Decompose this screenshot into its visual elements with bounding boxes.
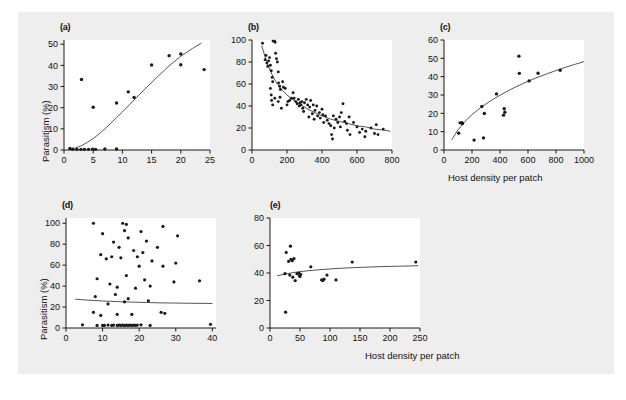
data-point bbox=[527, 79, 530, 82]
panel-d-plot: 020406080100010203040 bbox=[30, 200, 230, 355]
data-point bbox=[136, 323, 139, 326]
data-point bbox=[138, 265, 141, 268]
data-point bbox=[284, 87, 287, 90]
data-point bbox=[336, 121, 339, 124]
y-tick-label: 50 bbox=[48, 39, 58, 49]
data-point bbox=[270, 69, 273, 72]
data-point bbox=[300, 100, 303, 103]
data-point bbox=[269, 64, 272, 67]
y-tick-label: 0 bbox=[259, 323, 264, 333]
panel-e: (e) 020406080050100150200250 Host densit… bbox=[240, 200, 440, 375]
data-point bbox=[277, 70, 280, 73]
panel-b: (b) 0204060801000200400600800 bbox=[222, 22, 402, 177]
data-point bbox=[115, 101, 118, 104]
x-tick-label: 1000 bbox=[574, 155, 594, 165]
data-point bbox=[274, 52, 277, 55]
data-point bbox=[334, 278, 337, 281]
x-tick-label: 5 bbox=[91, 155, 96, 165]
panel-c-label: (c) bbox=[440, 22, 450, 32]
data-point bbox=[303, 101, 306, 104]
data-point bbox=[117, 246, 120, 249]
data-point bbox=[176, 234, 179, 237]
data-point bbox=[517, 54, 520, 57]
data-point bbox=[277, 81, 280, 84]
data-point bbox=[322, 278, 325, 281]
y-tick-label: 30 bbox=[48, 82, 58, 92]
data-point bbox=[321, 108, 324, 111]
data-point bbox=[156, 246, 159, 249]
plot-area bbox=[64, 40, 210, 150]
y-tick-label: 40 bbox=[254, 268, 264, 278]
data-point bbox=[472, 138, 475, 141]
y-tick-label: 80 bbox=[50, 239, 60, 249]
panel-e-plot: 020406080050100150200250 bbox=[240, 200, 440, 355]
data-point bbox=[307, 116, 310, 119]
data-point bbox=[99, 314, 102, 317]
data-point bbox=[103, 324, 106, 327]
data-point bbox=[125, 223, 128, 226]
data-point bbox=[536, 71, 539, 74]
data-point bbox=[275, 57, 278, 60]
y-tick-label: 40 bbox=[50, 281, 60, 291]
data-point bbox=[339, 125, 342, 128]
data-point bbox=[319, 117, 322, 120]
x-tick-label: 150 bbox=[352, 333, 367, 343]
data-point bbox=[311, 112, 314, 115]
data-point bbox=[163, 312, 166, 315]
data-point bbox=[316, 114, 319, 117]
data-point bbox=[290, 97, 293, 100]
data-point bbox=[294, 279, 297, 282]
data-point bbox=[150, 259, 153, 262]
data-point bbox=[373, 132, 376, 135]
data-point bbox=[103, 147, 106, 150]
data-point bbox=[150, 63, 153, 66]
data-point bbox=[361, 128, 364, 131]
data-point bbox=[482, 136, 485, 139]
data-point bbox=[503, 107, 506, 110]
data-point bbox=[299, 273, 302, 276]
data-point bbox=[270, 99, 273, 102]
plot-area bbox=[444, 40, 584, 150]
panel-a-ylabel: Parasitism (%) bbox=[40, 100, 51, 162]
x-tick-label: 200 bbox=[464, 155, 479, 165]
data-point bbox=[559, 69, 562, 72]
data-point bbox=[292, 91, 295, 94]
data-point bbox=[315, 105, 318, 108]
y-tick-label: 60 bbox=[236, 79, 246, 89]
data-point bbox=[123, 229, 126, 232]
data-point bbox=[179, 52, 182, 55]
data-point bbox=[209, 323, 212, 326]
data-point bbox=[68, 147, 71, 150]
data-point bbox=[495, 92, 498, 95]
data-point bbox=[143, 278, 146, 281]
data-point bbox=[99, 253, 102, 256]
data-point bbox=[125, 274, 128, 277]
data-point bbox=[483, 112, 486, 115]
data-point bbox=[96, 277, 99, 280]
data-point bbox=[127, 236, 130, 239]
data-point bbox=[127, 90, 130, 93]
data-point bbox=[283, 272, 286, 275]
panel-d-ylabel: Parasitism (%) bbox=[38, 278, 49, 340]
data-point bbox=[123, 300, 126, 303]
panel-a-plot: 010203040500510152025 bbox=[30, 22, 220, 177]
data-point bbox=[326, 119, 329, 122]
panel-c-xlabel: Host density per patch bbox=[448, 172, 543, 183]
panel-b-plot: 0204060801000200400600800 bbox=[222, 22, 402, 177]
data-point bbox=[172, 280, 175, 283]
data-point bbox=[80, 78, 83, 81]
y-tick-label: 60 bbox=[254, 241, 264, 251]
data-point bbox=[112, 323, 115, 326]
data-point bbox=[308, 106, 311, 109]
data-point bbox=[273, 97, 276, 100]
panel-d: (d) Parasitism (%) 020406080100010203040 bbox=[30, 200, 230, 375]
plot-area bbox=[66, 218, 216, 328]
data-point bbox=[75, 148, 78, 151]
data-point bbox=[342, 102, 345, 105]
data-point bbox=[291, 276, 294, 279]
data-point bbox=[322, 121, 325, 124]
x-tick-label: 50 bbox=[295, 333, 305, 343]
data-point bbox=[363, 135, 366, 138]
data-point bbox=[358, 131, 361, 134]
data-point bbox=[274, 41, 277, 44]
